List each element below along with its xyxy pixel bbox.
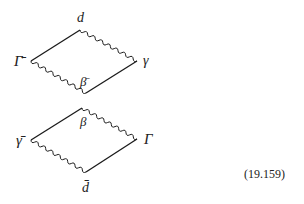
upper-bottom-label: β̄ <box>79 74 90 89</box>
lower-photon-line-top-right <box>82 108 137 140</box>
lower-fermion-line-left-top <box>31 108 82 140</box>
upper-top-label: d <box>77 10 85 25</box>
lower-fermion-line-bottom-right <box>86 139 137 172</box>
lower-bottom-label: d̄ <box>82 180 90 195</box>
lower-right-label: Γ <box>143 131 154 147</box>
equation-number: (19.159) <box>244 167 285 181</box>
upper-fermion-line-left-top <box>31 30 80 61</box>
lower-top-label: β <box>79 114 87 129</box>
upper-left-label: Γ̄ <box>13 53 27 69</box>
lower-left-label: γ̄ <box>16 132 26 148</box>
upper-right-label: γ <box>143 53 149 68</box>
upper-photon-line-top-right <box>80 30 137 62</box>
feynman-diagrams: Γ̄ d γ β̄ γ̄ β Γ d̄ (19.159) <box>0 0 304 204</box>
upper-fermion-line-bottom-right <box>86 61 137 93</box>
diagram-edges <box>31 30 137 173</box>
upper-photon-line-left-bottom <box>31 61 86 94</box>
lower-photon-line-left-bottom <box>31 140 86 173</box>
